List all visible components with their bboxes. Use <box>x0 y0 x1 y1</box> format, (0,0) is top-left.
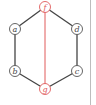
edges-group <box>15 7 77 89</box>
node-label: d <box>74 25 79 34</box>
node-label: g <box>42 85 47 94</box>
node-f: f <box>40 2 51 13</box>
node-g: g <box>40 84 51 95</box>
node-a: a <box>10 24 21 35</box>
nodes-group: fdcgba <box>10 2 83 95</box>
node-b: b <box>10 66 21 77</box>
node-c: c <box>72 66 83 77</box>
node-label: a <box>13 25 18 34</box>
node-label: b <box>12 67 17 76</box>
graph-diagram: fdcgba <box>0 0 96 105</box>
panel-divider <box>90 0 91 105</box>
node-d: d <box>72 24 83 35</box>
node-label: c <box>75 67 80 76</box>
